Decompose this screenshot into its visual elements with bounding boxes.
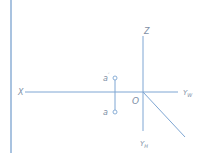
x-axis-label: X <box>17 88 24 97</box>
y-w-subscript: W <box>187 92 193 98</box>
y-h-subscript: H <box>144 143 148 149</box>
point-a-prime-label: a′ <box>103 71 110 83</box>
y-w-axis-label: YW <box>183 89 193 98</box>
z-axis-label: Z <box>143 27 150 36</box>
point-a-prime-marker <box>113 76 117 80</box>
point-a-marker <box>113 110 117 114</box>
projection-diagram: X Z YW YH O a′ a <box>0 0 206 159</box>
point-a-label: a <box>103 108 108 117</box>
diagonal-line <box>143 92 185 137</box>
y-h-axis-label: YH <box>140 140 148 149</box>
origin-label: O <box>132 96 139 106</box>
point-a-prime-mark: ′ <box>108 71 110 78</box>
